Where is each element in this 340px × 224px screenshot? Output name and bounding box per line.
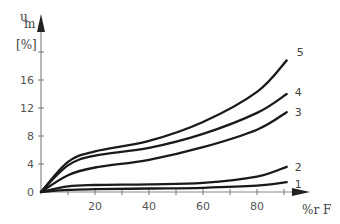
y-tick-label: 4 [27,158,34,171]
y-axis-arrow-icon [37,14,45,32]
curve-label-1: 1 [295,178,302,191]
y-tick-label: 0 [27,186,34,199]
y-tick-label: 16 [20,74,34,87]
x-tick-label: 80 [250,200,264,213]
x-tick-label: 20 [88,200,102,213]
y-tick-label: 8 [27,130,34,143]
curve-label-3: 3 [295,106,302,119]
curve-label-4: 4 [295,86,302,99]
curve-label-5: 5 [297,46,304,59]
x-tick-label: 40 [142,200,156,213]
y-tick-label: 12 [20,102,34,115]
x-tick-label: 60 [196,200,210,213]
curves [41,60,287,192]
x-axis-title: %r F [302,203,331,217]
y-axis-title-subscript: m [24,17,36,31]
chart-svg: 048121620406080um[%]%r F12345 [0,0,340,224]
curve-label-2: 2 [295,161,302,174]
curve-3 [41,112,287,192]
y-axis-unit: [%] [16,38,37,52]
